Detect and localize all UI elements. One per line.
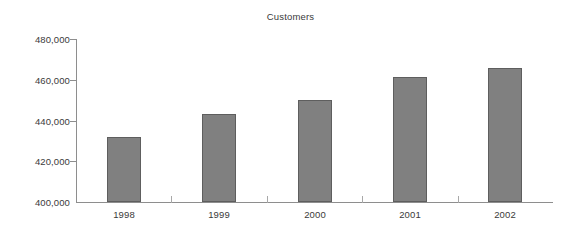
y-axis-tick <box>70 121 77 122</box>
x-axis-tick <box>171 196 172 203</box>
y-axis-tick <box>70 80 77 81</box>
x-axis-tick-label: 1998 <box>113 209 135 220</box>
x-axis-tick <box>362 196 363 203</box>
x-axis-tick-label: 1999 <box>208 209 230 220</box>
x-axis-tick-label: 2000 <box>304 209 326 220</box>
y-axis-tick-label: 440,000 <box>18 115 70 126</box>
bar-1999[interactable] <box>202 114 236 202</box>
y-axis-tick-label: 480,000 <box>18 34 70 45</box>
y-axis-tick-label: 420,000 <box>18 156 70 167</box>
x-axis-tick-label: 2001 <box>399 209 421 220</box>
y-axis-tick-labels: 400,000420,000440,000460,000480,000 <box>18 0 70 241</box>
bar-2001[interactable] <box>393 77 427 202</box>
plot-area: 400,000420,000440,000460,000480,000 1998… <box>0 0 581 241</box>
x-axis-tick-label: 2002 <box>494 209 516 220</box>
x-axis-tick <box>267 196 268 203</box>
y-axis-tick-label: 460,000 <box>18 74 70 85</box>
x-axis-line <box>76 202 553 203</box>
y-axis-tick <box>70 161 77 162</box>
bar-2002[interactable] <box>488 68 522 202</box>
y-axis-tick-label: 400,000 <box>18 197 70 208</box>
y-axis-tick <box>70 39 77 40</box>
bar-1998[interactable] <box>107 137 141 202</box>
bar-chart: Customers 400,000420,000440,000460,00048… <box>0 0 581 241</box>
x-axis-tick <box>458 196 459 203</box>
bar-2000[interactable] <box>298 100 332 202</box>
